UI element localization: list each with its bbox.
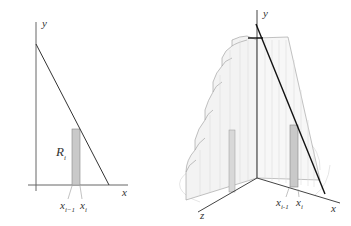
right-x-label: x	[331, 203, 336, 214]
right-figure	[180, 10, 340, 212]
right-y-label: y	[263, 8, 268, 19]
solid-of-revolution	[186, 36, 320, 200]
left-y-label: y	[42, 18, 47, 29]
strip-slab	[290, 125, 298, 187]
tick-label-xi-3d: xi	[296, 197, 303, 211]
strip-rectangle	[72, 129, 80, 185]
diagram-canvas	[0, 0, 351, 226]
left-figure	[28, 22, 128, 199]
right-z-label: z	[200, 210, 204, 221]
tick-label-xi-1: xi−1	[60, 200, 75, 214]
strip-slab-back	[229, 130, 235, 192]
left-x-label: x	[122, 187, 127, 198]
tick-leader-right	[80, 186, 82, 199]
tick-leader-left-3d	[286, 188, 289, 197]
tick-label-xi: xi	[80, 200, 87, 214]
tick-label-xi-1-3d: xi-1	[276, 197, 289, 211]
region-label: Ri	[56, 145, 66, 162]
tick-leader-left	[68, 186, 72, 199]
